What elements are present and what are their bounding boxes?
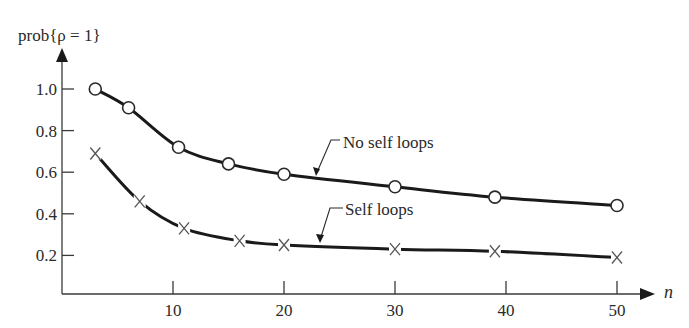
x-axis-arrowhead-icon	[640, 288, 655, 300]
x-axis-title: n	[664, 282, 673, 302]
circle-marker-icon	[123, 102, 135, 114]
circle-marker-icon	[173, 141, 185, 153]
chart: prob{ρ = 1} n 0.20.40.60.81.0 1020304050…	[0, 0, 689, 328]
y-tick-label: 0.6	[36, 163, 57, 182]
y-tick-label: 1.0	[36, 80, 57, 99]
leader-line	[318, 140, 340, 170]
y-axis-arrowhead-icon	[56, 48, 68, 62]
x-tick-label: 30	[387, 301, 404, 320]
x-axis-ticks: 1020304050	[165, 281, 626, 320]
leader-line	[321, 208, 343, 237]
annotation-self-loops: Self loops	[316, 200, 413, 243]
y-tick-label: 0.2	[36, 246, 57, 265]
x-tick-label: 40	[498, 301, 515, 320]
annotation-no-self-loops: No self loops	[313, 133, 434, 176]
annotation-label: Self loops	[345, 200, 413, 219]
leader-arrowhead-icon	[316, 234, 324, 243]
circle-marker-icon	[89, 83, 101, 95]
circle-marker-icon	[278, 168, 290, 180]
y-axis-title: prob{ρ = 1}	[18, 26, 101, 45]
circle-marker-icon	[223, 158, 235, 170]
y-axis-ticks: 0.20.40.60.81.0	[36, 80, 74, 265]
x-tick-label: 10	[165, 301, 182, 320]
circle-marker-icon	[611, 199, 623, 211]
axes: n	[56, 48, 673, 302]
circle-marker-icon	[389, 181, 401, 193]
y-tick-label: 0.4	[36, 205, 58, 224]
series-layer	[89, 83, 623, 263]
y-tick-label: 0.8	[36, 122, 57, 141]
x-tick-label: 20	[276, 301, 293, 320]
annotation-label: No self loops	[343, 133, 434, 152]
circle-marker-icon	[489, 191, 501, 203]
x-tick-label: 50	[609, 301, 626, 320]
